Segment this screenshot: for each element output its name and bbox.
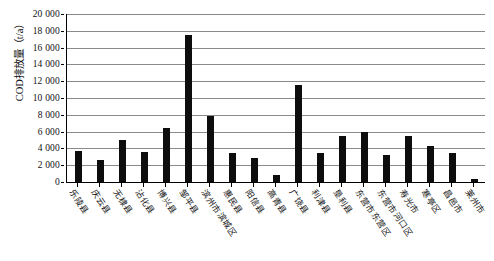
x-tick-slot [286, 183, 308, 187]
bar-slot [155, 14, 177, 182]
x-axis-tick-mark [429, 183, 430, 187]
bar-slot [199, 14, 221, 182]
x-tick-slot [176, 183, 198, 187]
x-axis-category-label: 高青县 [266, 188, 289, 216]
y-axis-tick-mark [61, 132, 64, 133]
y-axis-tick-label: 8 000 [38, 110, 60, 120]
bar-slot [463, 14, 485, 182]
x-tick-slot [154, 183, 176, 187]
x-tick-slot [396, 183, 418, 187]
x-axis-tick-mark [385, 183, 386, 187]
bar[interactable] [471, 179, 478, 182]
bar[interactable] [229, 153, 236, 182]
bar[interactable] [97, 160, 104, 182]
bar-slot [287, 14, 309, 182]
bar[interactable] [361, 132, 368, 182]
x-axis-tick-mark [407, 183, 408, 187]
x-axis-tick-mark [143, 183, 144, 187]
cod-emission-bar-chart: COD排放量（t/a） 20 00018 00016 00014 00012 0… [0, 0, 494, 261]
bar-slot [89, 14, 111, 182]
x-axis-category-label: 寿光市 [398, 188, 421, 216]
y-axis-tick-mark [61, 98, 64, 99]
x-axis-category-labels: 乐陵县庆云县无棣县沾化县博兴县邹平县滨州市滨城区惠民县阳信县高青县广饶县利津县垦… [66, 188, 484, 261]
x-axis-category-label: 利津县 [310, 188, 333, 216]
y-axis-tick-mark [61, 115, 64, 116]
bar[interactable] [339, 136, 346, 182]
bar[interactable] [141, 152, 148, 182]
bar-slot [375, 14, 397, 182]
x-axis-tick-mark [363, 183, 364, 187]
y-axis-tick-label: 16 000 [33, 43, 60, 53]
x-tick-slot [132, 183, 154, 187]
x-axis-category-label: 阳信县 [244, 188, 267, 216]
x-axis-category-label: 庆云县 [90, 188, 113, 216]
x-axis-category-label: 寒亭区 [420, 188, 443, 216]
x-axis-tick-mark [231, 183, 232, 187]
bar-slot [177, 14, 199, 182]
x-axis-category-label: 沾化县 [134, 188, 157, 216]
x-tick-slot [330, 183, 352, 187]
bar[interactable] [163, 128, 170, 182]
y-axis-tick-label: 6 000 [38, 127, 60, 137]
y-axis-tick-mark [61, 165, 64, 166]
y-axis-tick-mark [61, 81, 64, 82]
bar[interactable] [317, 153, 324, 182]
bar-slot [221, 14, 243, 182]
bar[interactable] [251, 158, 258, 182]
plot-area [66, 14, 485, 183]
bar-slot [353, 14, 375, 182]
x-axis-tick-mark [253, 183, 254, 187]
y-axis-tick-mark [61, 48, 64, 49]
bar[interactable] [383, 155, 390, 182]
x-axis-category-label: 广饶县 [288, 188, 311, 216]
x-axis-category-label: 邹平县 [178, 188, 201, 216]
bar-slot [441, 14, 463, 182]
x-axis-tick-marks [66, 183, 484, 187]
x-axis-tick-mark [165, 183, 166, 187]
x-axis-tick-mark [297, 183, 298, 187]
x-axis-category-label: 乐陵县 [68, 188, 91, 216]
bar-slot [243, 14, 265, 182]
x-axis-category-label: 昌邑市 [442, 188, 465, 216]
bar-slot [133, 14, 155, 182]
x-tick-slot [198, 183, 220, 187]
y-axis-tick-mark [61, 31, 64, 32]
x-axis-tick-mark [99, 183, 100, 187]
bar-slot [419, 14, 441, 182]
x-tick-slot [66, 183, 88, 187]
x-tick-slot [374, 183, 396, 187]
bar[interactable] [427, 146, 434, 182]
bar[interactable] [119, 140, 126, 182]
y-axis-tick-mark [61, 14, 64, 15]
bar[interactable] [185, 35, 192, 182]
bar[interactable] [405, 136, 412, 182]
x-tick-slot [308, 183, 330, 187]
x-axis-category-label: 无棣县 [112, 188, 135, 216]
x-axis-tick-mark [77, 183, 78, 187]
x-tick-slot [88, 183, 110, 187]
bar-slot [397, 14, 419, 182]
bar[interactable] [207, 116, 214, 182]
bar[interactable] [75, 151, 82, 182]
x-tick-slot [110, 183, 132, 187]
x-tick-slot [352, 183, 374, 187]
bar-slot [265, 14, 287, 182]
y-axis-tick-label: 12 000 [33, 76, 60, 86]
x-axis-category-label: 垦利县 [332, 188, 355, 216]
bar[interactable] [273, 175, 280, 182]
x-axis-tick-mark [187, 183, 188, 187]
bar[interactable] [295, 85, 302, 182]
x-tick-slot [220, 183, 242, 187]
y-axis-tick-mark [61, 148, 64, 149]
y-axis-tick-label: 2 000 [38, 160, 60, 170]
x-tick-slot [462, 183, 484, 187]
x-axis-tick-mark [341, 183, 342, 187]
y-axis-tick-mark [61, 182, 64, 183]
bar[interactable] [449, 153, 456, 182]
y-axis-tick-label: 14 000 [33, 59, 60, 69]
x-tick-slot [418, 183, 440, 187]
y-axis-tick-labels: 20 00018 00016 00014 00012 00010 0008 00… [22, 9, 64, 181]
x-axis-tick-mark [451, 183, 452, 187]
y-axis-tick-label: 4 000 [38, 143, 60, 153]
bars-layer [67, 14, 485, 182]
